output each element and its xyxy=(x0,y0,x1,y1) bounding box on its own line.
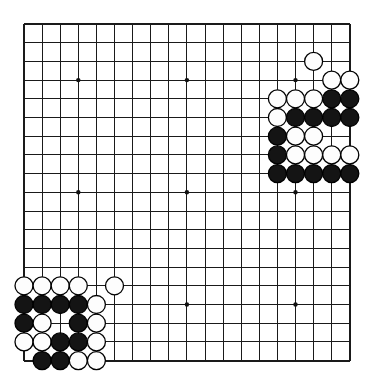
black-stone[interactable] xyxy=(69,296,87,314)
white-stone[interactable] xyxy=(341,71,359,89)
white-stone[interactable] xyxy=(15,277,33,295)
white-stone[interactable] xyxy=(341,146,359,164)
black-stone[interactable] xyxy=(33,352,51,370)
white-stone[interactable] xyxy=(305,127,323,145)
white-stone[interactable] xyxy=(15,333,33,351)
black-stone[interactable] xyxy=(305,109,323,127)
white-stone[interactable] xyxy=(287,127,305,145)
go-board[interactable] xyxy=(0,0,374,385)
black-stone[interactable] xyxy=(323,165,341,183)
black-stone[interactable] xyxy=(268,165,286,183)
star-point xyxy=(185,190,189,194)
white-stone[interactable] xyxy=(69,277,87,295)
black-stone[interactable] xyxy=(287,109,305,127)
black-stone[interactable] xyxy=(51,333,69,351)
black-stone[interactable] xyxy=(69,314,87,332)
black-stone[interactable] xyxy=(341,165,359,183)
black-stone[interactable] xyxy=(51,296,69,314)
black-stone[interactable] xyxy=(15,314,33,332)
black-stone[interactable] xyxy=(15,296,33,314)
white-stone[interactable] xyxy=(51,277,69,295)
black-stone[interactable] xyxy=(69,333,87,351)
white-stone[interactable] xyxy=(287,146,305,164)
black-stone[interactable] xyxy=(341,90,359,108)
white-stone[interactable] xyxy=(33,277,51,295)
black-stone[interactable] xyxy=(268,146,286,164)
star-point xyxy=(185,78,189,82)
white-stone[interactable] xyxy=(69,352,87,370)
white-stone[interactable] xyxy=(33,333,51,351)
star-point xyxy=(76,78,80,82)
star-point xyxy=(185,302,189,306)
white-stone[interactable] xyxy=(268,109,286,127)
black-stone[interactable] xyxy=(323,109,341,127)
white-stone[interactable] xyxy=(87,333,105,351)
black-stone[interactable] xyxy=(323,90,341,108)
white-stone[interactable] xyxy=(87,314,105,332)
white-stone[interactable] xyxy=(268,90,286,108)
star-point xyxy=(76,190,80,194)
black-stone[interactable] xyxy=(287,165,305,183)
white-stone[interactable] xyxy=(323,71,341,89)
white-stone[interactable] xyxy=(305,90,323,108)
go-board-canvas[interactable] xyxy=(0,0,374,385)
white-stone[interactable] xyxy=(305,52,323,70)
black-stone[interactable] xyxy=(305,165,323,183)
white-stone[interactable] xyxy=(87,352,105,370)
black-stone[interactable] xyxy=(341,109,359,127)
black-stone[interactable] xyxy=(51,352,69,370)
white-stone[interactable] xyxy=(87,296,105,314)
star-point xyxy=(293,302,297,306)
white-stone[interactable] xyxy=(106,277,124,295)
page-root xyxy=(0,0,374,385)
black-stone[interactable] xyxy=(33,296,51,314)
white-stone[interactable] xyxy=(33,314,51,332)
white-stone[interactable] xyxy=(287,90,305,108)
star-point xyxy=(293,78,297,82)
black-stone[interactable] xyxy=(268,127,286,145)
white-stone[interactable] xyxy=(323,146,341,164)
star-point xyxy=(293,190,297,194)
white-stone[interactable] xyxy=(305,146,323,164)
